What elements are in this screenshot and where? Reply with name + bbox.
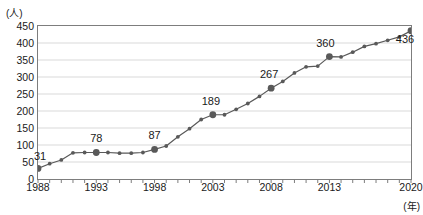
data-point-label: 78: [90, 133, 102, 144]
data-point: [83, 151, 87, 155]
data-point: [281, 80, 285, 84]
y-axis-tick-label: 100: [1, 140, 34, 150]
data-point: [374, 42, 378, 46]
data-point-label: 436: [396, 34, 414, 45]
data-point-highlighted: [93, 149, 100, 156]
data-point-highlighted: [209, 111, 216, 118]
y-axis-tick-label: 400: [1, 38, 34, 48]
y-axis-tick-label: 250: [1, 89, 34, 99]
data-point: [118, 151, 122, 155]
data-point: [176, 135, 180, 139]
x-axis-tick-labels: 1988199319982003200820132020: [0, 182, 423, 202]
data-point: [316, 64, 320, 68]
x-axis-tick-label: 2008: [259, 182, 282, 193]
x-axis-tick-label: 1998: [143, 182, 166, 193]
data-point: [386, 38, 390, 42]
plot-area: [37, 25, 412, 180]
x-axis-tick-label: 2013: [318, 182, 341, 193]
data-point: [246, 102, 250, 106]
data-point-label: 189: [202, 96, 220, 107]
data-point: [59, 158, 63, 162]
data-point-highlighted: [38, 165, 41, 172]
data-point-highlighted: [326, 53, 333, 60]
data-point-label: 360: [316, 38, 334, 49]
y-axis-tick-label: 150: [1, 123, 34, 133]
series-markers: [38, 27, 411, 172]
x-axis-tick-label: 2003: [201, 182, 224, 193]
data-point: [141, 151, 145, 155]
line-chart: (人) (年) 450400350300250200150100500 1988…: [0, 0, 423, 215]
data-point: [164, 144, 168, 148]
x-axis-tick-label: 2020: [399, 182, 422, 193]
data-point: [293, 71, 297, 75]
series-line: [38, 31, 411, 169]
y-axis-tick-label: 450: [1, 21, 34, 31]
data-point: [339, 55, 343, 59]
data-point: [188, 127, 192, 131]
y-axis-tick-label: 300: [1, 72, 34, 82]
data-point: [258, 94, 262, 98]
data-point: [304, 65, 308, 69]
data-point: [223, 113, 227, 117]
data-point: [48, 162, 52, 166]
data-point-highlighted: [151, 146, 158, 153]
data-point: [351, 50, 355, 54]
x-axis-tick-label: 1993: [85, 182, 108, 193]
data-point-label: 31: [34, 151, 46, 162]
data-point: [362, 45, 366, 49]
y-axis-tick-label: 200: [1, 106, 34, 116]
data-point: [129, 151, 133, 155]
data-point-label: 87: [148, 130, 160, 141]
y-axis-tick-label: 350: [1, 55, 34, 65]
data-point-label: 267: [260, 69, 278, 80]
series-line-and-markers: [38, 26, 411, 179]
data-point: [71, 151, 75, 155]
data-point: [199, 118, 203, 122]
data-point: [106, 151, 110, 155]
data-point-highlighted: [268, 85, 275, 92]
y-axis-tick-label: 50: [1, 157, 34, 167]
x-axis-tick-label: 1988: [26, 182, 49, 193]
data-point: [234, 107, 238, 111]
